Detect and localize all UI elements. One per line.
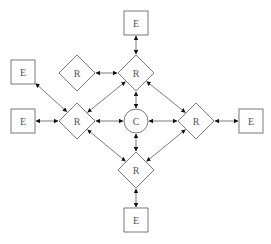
node-label: R: [74, 68, 81, 79]
node-label: E: [133, 215, 139, 226]
node-r_left_top: R: [59, 55, 95, 91]
node-label: R: [133, 165, 140, 176]
node-label: R: [74, 116, 81, 127]
diagram-canvas: ERRERECRERE: [0, 0, 271, 244]
edge-r_top-r_left: [88, 82, 126, 113]
node-e_bottom: E: [124, 208, 148, 232]
node-label: C: [133, 116, 140, 127]
edge-e_left_top-r_left: [36, 84, 67, 112]
node-label: E: [20, 116, 26, 127]
node-e_left: E: [11, 109, 35, 133]
edge-r_top-r_right: [147, 82, 185, 113]
edge-r_left-r_bottom: [88, 130, 126, 161]
node-e_right: E: [239, 109, 263, 133]
node-e_left_top: E: [11, 60, 35, 84]
node-r_right: R: [178, 103, 214, 139]
node-r_left: R: [59, 103, 95, 139]
nodes-layer: ERRERECRERE: [11, 11, 263, 232]
node-label: E: [20, 67, 26, 78]
edge-r_right-r_bottom: [147, 130, 186, 162]
node-label: E: [248, 116, 254, 127]
node-label: E: [133, 18, 139, 29]
node-r_top: R: [118, 55, 154, 91]
node-label: R: [193, 116, 200, 127]
node-label: R: [133, 68, 140, 79]
network-diagram: ERRERECRERE: [0, 0, 271, 244]
node-c_center: C: [124, 109, 148, 133]
node-r_bottom: R: [118, 152, 154, 188]
node-e_top: E: [124, 11, 148, 35]
